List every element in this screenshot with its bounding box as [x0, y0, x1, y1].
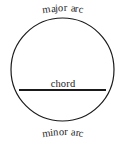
circle-chord-diagram: major arc chord minor arc: [0, 0, 126, 145]
major-arc-label: major arc: [0, 2, 126, 14]
chord-label: chord: [0, 78, 126, 90]
diagram-canvas: [0, 0, 126, 145]
minor-arc-label: minor arc: [0, 126, 126, 138]
circle-outline: [11, 18, 114, 121]
